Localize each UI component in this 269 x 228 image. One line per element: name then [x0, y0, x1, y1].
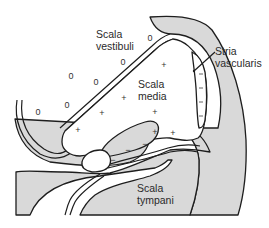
plus-symbol: + — [121, 93, 126, 103]
plus-symbol: + — [99, 108, 104, 118]
minus-symbol: − — [142, 139, 147, 149]
zero-symbol: 0 — [64, 100, 69, 110]
label-scala-media-2: media — [138, 90, 167, 102]
plus-symbol: + — [152, 107, 157, 117]
label-scala-media-1: Scala — [138, 78, 164, 90]
minus-symbol: − — [110, 155, 115, 165]
zero-symbol: 0 — [35, 107, 40, 117]
minus-symbol: − — [142, 154, 147, 164]
cochlea-diagram: Scala vestibuli Scala media Stria vascul… — [0, 0, 269, 228]
minus-symbol: − — [125, 145, 130, 155]
plus-symbol: + — [170, 128, 175, 138]
label-scala-tympani-2: tympani — [137, 194, 174, 206]
zero-symbol: 0 — [93, 77, 98, 87]
plus-symbol: + — [75, 125, 80, 135]
label-scala-vestibuli-2: vestibuli — [96, 40, 134, 52]
zero-symbol: 0 — [147, 33, 152, 43]
plus-symbol: + — [161, 60, 166, 70]
zero-symbol: 0 — [120, 57, 125, 67]
label-scala-tympani-1: Scala — [137, 182, 163, 194]
label-stria-vascularis-1: Stria — [215, 45, 237, 57]
label-scala-vestibuli-1: Scala — [96, 28, 122, 40]
label-stria-vascularis-2: vascularis — [215, 57, 262, 69]
plus-symbol: + — [152, 127, 157, 137]
zero-symbol: 0 — [68, 71, 73, 81]
